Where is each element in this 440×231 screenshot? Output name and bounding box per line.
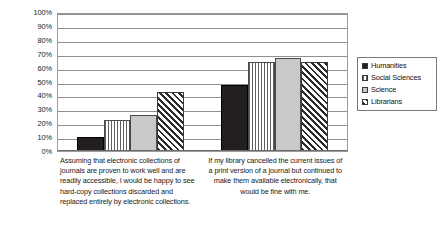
y-tick-label: 10% <box>38 134 53 142</box>
bar-humanities[interactable] <box>221 85 248 151</box>
bar-librarians[interactable] <box>301 62 328 151</box>
bar-science[interactable] <box>275 58 302 151</box>
category-label: Assuming that electronic collections of … <box>57 156 203 207</box>
y-tick-label: 0% <box>42 148 52 156</box>
bar-social-sciences[interactable] <box>104 120 131 152</box>
bar-group <box>58 14 203 151</box>
y-tick-label: 20% <box>38 120 53 128</box>
bar-groups <box>58 14 347 151</box>
y-tick-label: 60% <box>38 65 53 73</box>
legend-label: Social Sciences <box>371 74 421 82</box>
legend-swatch-icon <box>362 63 368 69</box>
category-labels: Assuming that electronic collections of … <box>57 156 348 207</box>
y-tick-label: 50% <box>38 79 53 87</box>
bars <box>221 14 328 151</box>
legend-item[interactable]: Humanities <box>362 62 433 70</box>
bar-chart: 100%90%80%70%60%50%40%30%20%10%0% Humani… <box>0 0 440 231</box>
category-label: If my library cancelled the current issu… <box>203 156 349 207</box>
legend-swatch-icon <box>362 75 368 81</box>
bars <box>77 14 184 151</box>
legend: HumanitiesSocial SciencesScienceLibraria… <box>357 57 437 111</box>
legend-swatch-icon <box>362 87 368 93</box>
y-tick-label: 90% <box>38 23 53 31</box>
y-tick-label: 80% <box>38 37 53 45</box>
x-axis-line <box>58 150 347 151</box>
legend-swatch-icon <box>362 99 368 105</box>
y-tick-label: 40% <box>38 92 53 100</box>
legend-label: Science <box>371 86 396 94</box>
legend-label: Librarians <box>371 98 402 106</box>
legend-item[interactable]: Librarians <box>362 98 433 106</box>
bar-humanities[interactable] <box>77 137 104 151</box>
bar-group <box>203 14 348 151</box>
y-tick-label: 100% <box>33 9 52 17</box>
y-axis: 100%90%80%70%60%50%40%30%20%10%0% <box>0 8 56 158</box>
legend-item[interactable]: Social Sciences <box>362 74 433 82</box>
plot-area <box>57 13 348 152</box>
bar-social-sciences[interactable] <box>248 62 275 151</box>
legend-item[interactable]: Science <box>362 86 433 94</box>
legend-label: Humanities <box>371 62 406 70</box>
y-tick-label: 70% <box>38 51 53 59</box>
bar-librarians[interactable] <box>157 92 184 151</box>
bar-science[interactable] <box>130 115 157 151</box>
y-tick-label: 30% <box>38 106 53 114</box>
